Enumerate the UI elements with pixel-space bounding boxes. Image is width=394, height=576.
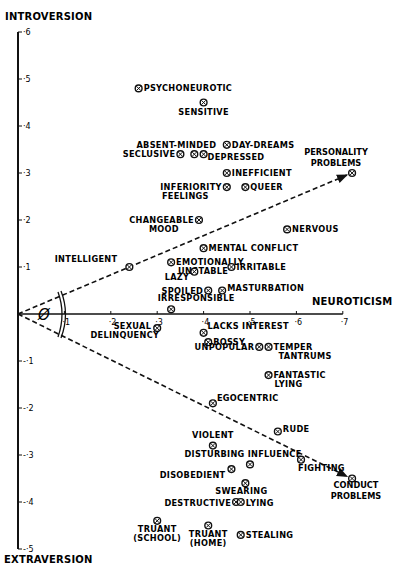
data-points: PSYCHONEUROTICSENSITIVEABSENT-MINDEDSECL… <box>55 83 345 547</box>
point-marker-icon <box>284 226 291 233</box>
data-point: DEPRESSED <box>200 151 264 162</box>
x-axis-label: NEUROTICISM <box>312 296 392 307</box>
point-label: INTELLIGENT <box>55 254 118 264</box>
point-label: UNPOPULAR <box>195 342 255 352</box>
point-marker-icon <box>168 259 175 266</box>
data-point: INEFFICIENT <box>223 168 292 178</box>
point-label: VIOLENT <box>192 430 234 440</box>
point-label: FEELINGS <box>162 191 209 201</box>
point-label: (HOME) <box>190 538 227 548</box>
point-label: SWEARING <box>215 486 267 496</box>
point-label: IRRESPONSIBLE <box>158 293 235 303</box>
data-point: SENSITIVE <box>178 99 229 116</box>
point-marker-icon <box>200 151 207 158</box>
data-point: DAY-DREAMS <box>223 140 294 150</box>
point-marker-icon <box>200 245 207 252</box>
point-label: DISTURBING INFLUENCE <box>184 449 301 459</box>
point-label: MENTAL CONFLICT <box>209 243 299 253</box>
point-label: IRRITABLE <box>236 262 286 272</box>
point-marker-icon <box>200 329 207 336</box>
point-label: DISOBEDIENT <box>160 470 226 480</box>
data-point: QUEER <box>242 182 283 192</box>
point-marker-icon <box>228 466 235 473</box>
y-tick-label: -·4 <box>23 498 34 507</box>
point-marker-icon <box>191 151 198 158</box>
data-point: FANTASTICLYING <box>265 370 326 389</box>
y-tick-label: ·5 <box>23 75 31 84</box>
data-point: IRRESPONSIBLE <box>158 293 235 312</box>
data-point: TRUANT(HOME) <box>189 522 228 547</box>
point-label: DAY-DREAMS <box>232 140 295 150</box>
data-point: INFERIORITYFEELINGS <box>160 182 230 201</box>
data-point: TEMPERTANTRUMS <box>265 342 332 361</box>
data-point: SECLUSIVE <box>123 149 184 159</box>
data-point: STEALING <box>237 530 293 540</box>
point-label: NERVOUS <box>292 224 339 234</box>
vector-label: PROBLEMS <box>331 491 381 501</box>
vector-label: PROBLEMS <box>311 158 361 168</box>
point-marker-icon <box>265 344 272 351</box>
data-point: INTELLIGENT <box>55 254 133 270</box>
point-marker-icon <box>237 532 244 539</box>
data-point: UNPOPULAR <box>195 342 263 352</box>
y-tick-label: -·1 <box>23 357 34 366</box>
data-point: DISTURBING INFLUENCE <box>184 449 301 467</box>
data-point: LYING <box>237 498 273 508</box>
point-marker-icon <box>223 184 230 191</box>
point-marker-icon <box>168 306 175 313</box>
point-label: DEPRESSED <box>208 152 265 162</box>
data-point: VIOLENT <box>192 430 234 449</box>
angle-label: Ø <box>37 306 51 324</box>
point-marker-icon <box>237 499 244 506</box>
point-label: MOOD <box>149 224 179 234</box>
point-label: STEALING <box>246 530 294 540</box>
data-point: EGOCENTRIC <box>209 393 278 406</box>
data-point: MENTAL CONFLICT <box>200 243 298 253</box>
point-label: EGOCENTRIC <box>217 393 279 403</box>
point-label: DELINQUENCY <box>90 330 160 340</box>
point-marker-icon <box>349 170 356 177</box>
point-marker-icon <box>200 99 207 106</box>
x-tick-label: ·1 <box>62 318 70 327</box>
point-label: (SCHOOL) <box>133 533 181 543</box>
point-marker-icon <box>196 217 203 224</box>
y-axis-label-top: INTROVERSION <box>5 11 92 22</box>
x-tick-label: ·6 <box>294 318 302 327</box>
point-label: SENSITIVE <box>178 107 229 117</box>
point-marker-icon <box>256 344 263 351</box>
point-label: MASTURBATION <box>227 283 304 293</box>
point-marker-icon <box>247 461 254 468</box>
point-label: PSYCHONEUROTIC <box>144 83 233 93</box>
vector-label: CONDUCT <box>334 480 379 490</box>
point-label: LAZY <box>165 272 190 282</box>
data-point: PSYCHONEUROTIC <box>135 83 232 93</box>
point-label: RUDE <box>283 424 310 434</box>
point-label: LACKS INTEREST <box>208 321 289 331</box>
point-marker-icon <box>191 268 198 275</box>
point-label: DESTRUCTIVE <box>164 498 231 508</box>
point-marker-icon <box>242 184 249 191</box>
point-label: LYING <box>246 498 274 508</box>
data-point: RUDE <box>274 424 309 435</box>
point-marker-icon <box>135 85 142 92</box>
y-tick-label: ·3 <box>23 169 31 178</box>
y-tick-label: -·2 <box>23 404 34 413</box>
data-point: FIGHTING <box>298 456 345 472</box>
scatter-chart: INTROVERSION EXTRAVERSION NEUROTICISM ·6… <box>0 0 394 576</box>
point-label: INEFFICIENT <box>232 168 292 178</box>
point-label: TANTRUMS <box>279 351 332 361</box>
data-point: IRRITABLE <box>228 262 286 272</box>
data-point: SEXUALDELINQUENCY <box>90 321 160 340</box>
x-tick-label: ·7 <box>341 318 349 327</box>
point-label: QUEER <box>250 182 283 192</box>
data-point: MASTURBATION <box>219 283 304 294</box>
y-tick-label: ·4 <box>23 122 31 131</box>
point-marker-icon <box>209 400 216 407</box>
point-marker-icon <box>223 141 230 148</box>
point-label: LYING <box>275 379 303 389</box>
point-marker-icon <box>228 264 235 271</box>
data-point: CHANGEABLEMOOD <box>129 215 202 234</box>
data-point: SWEARING <box>215 480 267 496</box>
data-point: NERVOUS <box>284 224 339 234</box>
y-tick-label: ·6 <box>23 28 31 37</box>
